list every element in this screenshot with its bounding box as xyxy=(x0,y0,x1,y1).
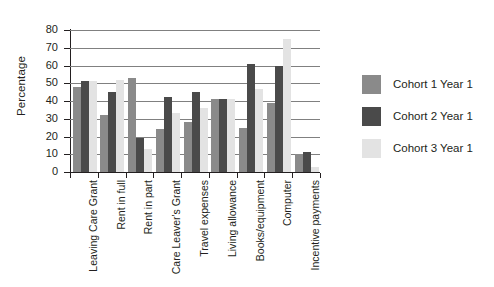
x-axis-tick xyxy=(153,173,154,178)
bar xyxy=(89,81,97,172)
bar xyxy=(275,66,283,173)
x-axis-category-label: Travel expenses xyxy=(199,180,210,257)
bar xyxy=(172,113,180,172)
bar xyxy=(267,103,275,172)
bar-group xyxy=(99,30,127,172)
x-axis-category-label: Care Leaver's Grant xyxy=(171,180,182,274)
bar xyxy=(100,115,108,172)
bar xyxy=(144,149,152,172)
x-axis-category-label: Living allowance xyxy=(227,180,238,257)
bar xyxy=(211,99,219,172)
x-axis-tick xyxy=(209,173,210,178)
bar-group xyxy=(183,30,211,172)
x-axis-tick xyxy=(181,173,182,178)
bar xyxy=(239,128,247,172)
x-axis-tick xyxy=(237,173,238,178)
y-axis-tick-label: 70 xyxy=(24,42,58,53)
bar-group xyxy=(127,30,155,172)
legend-label: Cohort 2 Year 1 xyxy=(393,109,473,123)
y-axis-tick-label: 60 xyxy=(24,60,58,71)
bar xyxy=(73,87,81,172)
x-axis-category-label: Rent in full xyxy=(116,180,127,230)
bar xyxy=(116,80,124,172)
y-axis-tick-label: 80 xyxy=(24,24,58,35)
bar xyxy=(156,129,164,172)
y-axis-tick-label: 50 xyxy=(24,77,58,88)
bar xyxy=(247,64,255,172)
bar-group xyxy=(294,30,322,172)
legend-swatch xyxy=(362,75,381,94)
legend-swatch xyxy=(362,139,381,158)
x-axis-tick xyxy=(70,173,71,178)
bar xyxy=(136,138,144,172)
legend-swatch xyxy=(362,107,381,126)
y-axis-tick-label: 20 xyxy=(24,131,58,142)
bar xyxy=(128,78,136,172)
bar xyxy=(164,97,172,172)
y-axis-tick-label: 30 xyxy=(24,113,58,124)
x-axis-tick xyxy=(126,173,127,178)
bar xyxy=(283,39,291,172)
x-axis-category-label: Leaving Care Grant xyxy=(88,180,99,272)
bar-group xyxy=(266,30,294,172)
bar-group xyxy=(155,30,183,172)
bar xyxy=(303,152,311,172)
bar xyxy=(108,92,116,172)
bar xyxy=(219,99,227,172)
x-axis-category-label: Rent in part xyxy=(143,180,154,234)
legend-label: Cohort 1 Year 1 xyxy=(393,77,473,91)
bar xyxy=(184,122,192,172)
bar-group xyxy=(72,30,100,172)
y-axis-tick-label: 0 xyxy=(24,166,58,177)
x-axis-tick xyxy=(264,173,265,178)
y-axis-tick-label: 10 xyxy=(24,148,58,159)
x-axis-category-label: Incentive payments xyxy=(310,180,321,270)
x-axis-tick xyxy=(320,173,321,178)
bar-group xyxy=(238,30,266,172)
legend-label: Cohort 3 Year 1 xyxy=(393,141,473,155)
bar xyxy=(227,99,235,172)
plot-area xyxy=(70,30,320,172)
axis-baseline xyxy=(70,172,320,173)
x-axis-category-label: Computer xyxy=(282,180,293,226)
bar xyxy=(192,92,200,172)
x-axis-tick xyxy=(292,173,293,178)
bar xyxy=(295,154,303,172)
bar xyxy=(311,167,319,172)
bar xyxy=(200,108,208,172)
x-axis-category-label: Books/equipment xyxy=(255,180,266,261)
bar xyxy=(255,89,263,172)
bar-chart-figure: Percentage 01020304050607080 Leaving Car… xyxy=(0,0,494,287)
x-axis-tick xyxy=(98,173,99,178)
bar-group xyxy=(210,30,238,172)
y-axis-tick-label: 40 xyxy=(24,95,58,106)
bar xyxy=(81,81,89,172)
